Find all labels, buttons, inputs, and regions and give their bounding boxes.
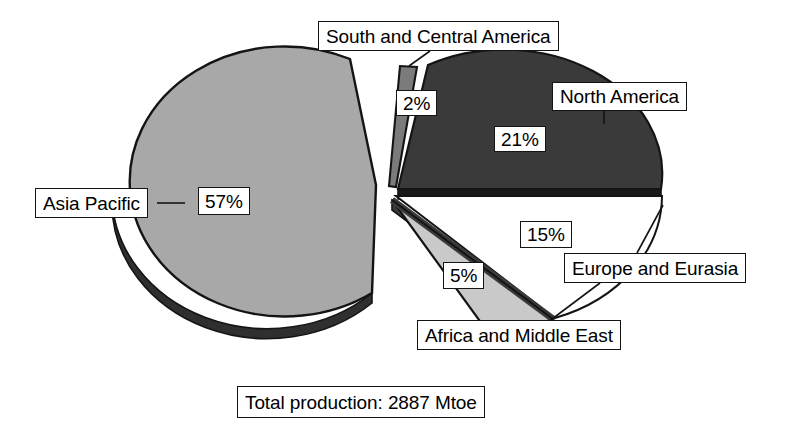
pie-graphic [0, 0, 796, 443]
slice-label-south-and-central-america: South and Central America [318, 21, 559, 51]
slice-label-asia-pacific: Asia Pacific [35, 188, 148, 218]
slice-label-north-america: North America [552, 82, 687, 111]
slice-north-america[interactable] [398, 50, 662, 199]
slice-label-europe-and-eurasia: Europe and Eurasia [564, 253, 746, 283]
slice-value-europe-and-eurasia: 15% [520, 221, 572, 248]
slice-label-africa-and-middle-east: Africa and Middle East [417, 320, 621, 350]
slice-value-south-and-central-america: 2% [396, 90, 437, 116]
leader-line-south-and-central-america [409, 51, 430, 66]
slice-value-africa-and-middle-east: 5% [443, 262, 484, 289]
slice-value-asia-pacific: 57% [198, 187, 250, 215]
slice-value-north-america: 21% [494, 126, 546, 152]
pie-chart: South and Central America North America … [0, 0, 796, 443]
total-production-caption: Total production: 2887 Mtoe [237, 386, 485, 418]
